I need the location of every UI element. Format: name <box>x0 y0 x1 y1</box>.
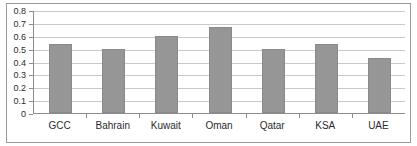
y-axis-tick-label: 0.5 <box>13 46 26 55</box>
x-axis: GCCBahrainKuwaitOmanQatarKSAUAE <box>33 120 405 140</box>
x-axis-tick-mark <box>299 114 300 118</box>
x-axis-tick-label-kuwait: Kuwait <box>151 120 181 132</box>
x-axis-tick-mark <box>246 114 247 118</box>
x-axis-tick-mark <box>352 114 353 118</box>
y-axis-tick-label: 0.2 <box>13 84 26 93</box>
plot-area <box>33 11 405 114</box>
x-axis-tick-label-uae: UAE <box>368 120 389 132</box>
y-axis-tick-label: 0.4 <box>13 59 26 68</box>
bar-kuwait[interactable] <box>155 36 178 113</box>
y-axis-tick-label: 0.1 <box>13 97 26 106</box>
y-axis-tick-label: 0.3 <box>13 71 26 80</box>
bars-group <box>34 11 405 113</box>
y-axis-tick-label: 0.8 <box>13 7 26 16</box>
y-axis-tick-label: 0.7 <box>13 20 26 29</box>
x-axis-tick-mark <box>86 114 87 118</box>
bar-chart-figure: 00.10.20.30.40.50.60.70.8 GCCBahrainKuwa… <box>0 0 417 146</box>
bar-gcc[interactable] <box>49 44 72 113</box>
x-axis-tick-label-ksa: KSA <box>315 120 335 132</box>
bar-qatar[interactable] <box>262 49 285 113</box>
y-axis-tick-label: 0 <box>21 110 26 119</box>
x-axis-tick-mark <box>139 114 140 118</box>
x-axis-tick-mark <box>192 114 193 118</box>
bar-uae[interactable] <box>368 58 391 113</box>
y-axis: 00.10.20.30.40.50.60.70.8 <box>0 0 33 146</box>
bar-oman[interactable] <box>209 27 232 113</box>
x-axis-tick-label-oman: Oman <box>205 120 232 132</box>
x-axis-tick-label-qatar: Qatar <box>260 120 285 132</box>
y-axis-tick-mark <box>29 114 33 115</box>
bar-bahrain[interactable] <box>102 49 125 113</box>
y-axis-tick-label: 0.6 <box>13 33 26 42</box>
bar-ksa[interactable] <box>315 44 338 113</box>
x-axis-tick-label-gcc: GCC <box>48 120 70 132</box>
x-axis-tick-label-bahrain: Bahrain <box>95 120 129 132</box>
